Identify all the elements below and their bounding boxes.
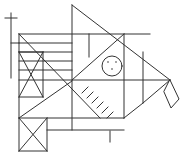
hatch-marks — [82, 87, 113, 118]
eye — [102, 56, 122, 76]
diamond-tail — [164, 80, 179, 108]
lower-crossed-box — [19, 118, 47, 151]
left-pole — [5, 13, 19, 78]
inner-frame — [72, 34, 170, 118]
upper-crossed-box — [19, 52, 170, 97]
fish-line-drawing — [0, 0, 186, 162]
